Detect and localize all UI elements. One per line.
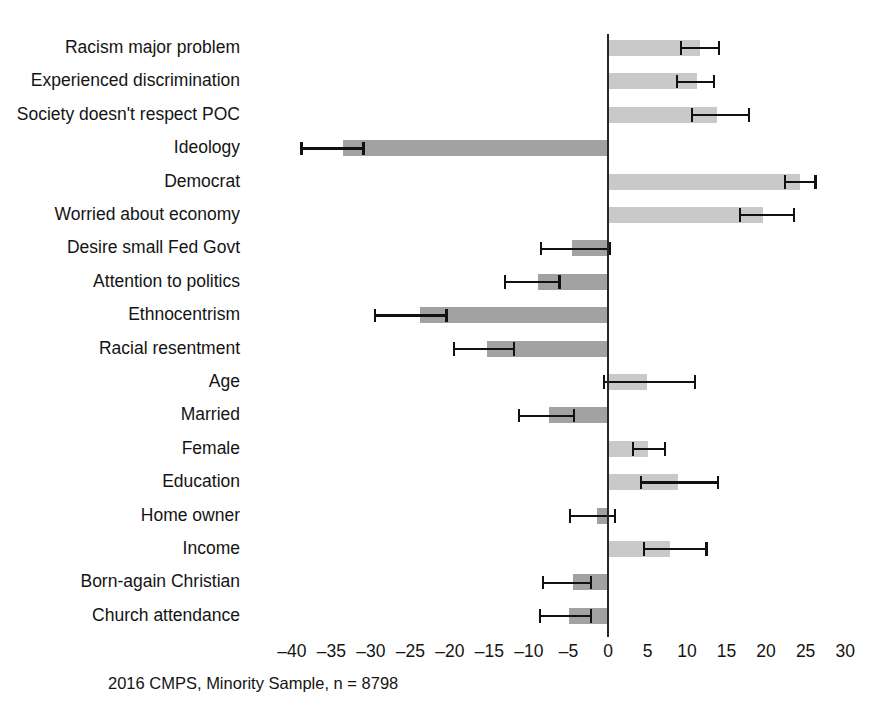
coefficient-row: Age bbox=[0, 366, 879, 397]
error-bar-cap bbox=[717, 476, 719, 490]
coefficient-row: Desire small Fed Govt bbox=[0, 232, 879, 263]
x-tick-label: –15 bbox=[475, 641, 504, 662]
category-label: Ethnocentrism bbox=[0, 299, 240, 330]
error-bar-cap bbox=[569, 509, 571, 523]
coefficient-row: Racial resentment bbox=[0, 333, 879, 364]
error-bar bbox=[784, 181, 816, 183]
x-tick-label: –20 bbox=[435, 641, 464, 662]
x-tick-label: 5 bbox=[643, 641, 653, 662]
coefficient-plot-figure: Racism major problemExperienced discrimi… bbox=[0, 0, 879, 714]
error-bar bbox=[632, 448, 667, 450]
x-tick-label: 0 bbox=[603, 641, 613, 662]
error-bar-cap bbox=[640, 476, 642, 490]
bar bbox=[343, 140, 608, 156]
error-bar bbox=[374, 314, 448, 316]
coefficient-row: Attention to politics bbox=[0, 266, 879, 297]
x-tick-label: 20 bbox=[756, 641, 775, 662]
x-tick-label: 25 bbox=[796, 641, 815, 662]
coefficient-row: Income bbox=[0, 533, 879, 564]
error-bar-cap bbox=[614, 509, 616, 523]
error-bar bbox=[518, 415, 575, 417]
error-bar-cap bbox=[748, 108, 750, 122]
coefficient-row: Female bbox=[0, 433, 879, 464]
x-tick-label: –40 bbox=[277, 641, 306, 662]
error-bar bbox=[691, 114, 750, 116]
category-label: Ideology bbox=[0, 132, 240, 163]
error-bar-cap bbox=[793, 208, 795, 222]
category-label: Experienced discrimination bbox=[0, 65, 240, 96]
category-label: Home owner bbox=[0, 500, 240, 531]
x-tick-label: 15 bbox=[717, 641, 736, 662]
category-label: Church attendance bbox=[0, 600, 240, 631]
category-label: Age bbox=[0, 366, 240, 397]
coefficient-row: Society doesn't respect POC bbox=[0, 99, 879, 130]
category-label: Racial resentment bbox=[0, 333, 240, 364]
error-bar-cap bbox=[518, 409, 520, 423]
x-tick-label: –5 bbox=[559, 641, 578, 662]
coefficient-row: Experienced discrimination bbox=[0, 65, 879, 96]
error-bar-cap bbox=[590, 609, 592, 623]
category-label: Racism major problem bbox=[0, 32, 240, 63]
error-bar bbox=[540, 248, 611, 250]
error-bar-cap bbox=[362, 142, 364, 156]
coefficient-row: Education bbox=[0, 466, 879, 497]
error-bar-cap bbox=[739, 208, 741, 222]
error-bar-cap bbox=[374, 309, 376, 323]
error-bar-cap bbox=[691, 108, 693, 122]
x-tick-label: –25 bbox=[396, 641, 425, 662]
coefficient-row: Racism major problem bbox=[0, 32, 879, 63]
error-bar bbox=[453, 348, 515, 350]
category-label: Education bbox=[0, 466, 240, 497]
error-bar-cap bbox=[300, 142, 302, 156]
error-bar-cap bbox=[603, 375, 605, 389]
category-label: Attention to politics bbox=[0, 266, 240, 297]
chart-caption: 2016 CMPS, Minority Sample, n = 8798 bbox=[108, 674, 398, 693]
x-tick-label: –30 bbox=[356, 641, 385, 662]
error-bar bbox=[539, 615, 592, 617]
plot-area: Racism major problemExperienced discrimi… bbox=[0, 0, 879, 714]
category-label: Desire small Fed Govt bbox=[0, 232, 240, 263]
error-bar-cap bbox=[540, 242, 542, 256]
error-bar-cap bbox=[713, 75, 715, 89]
error-bar-cap bbox=[513, 342, 515, 356]
coefficient-row: Democrat bbox=[0, 166, 879, 197]
error-bar-cap bbox=[643, 542, 645, 556]
category-label: Worried about economy bbox=[0, 199, 240, 230]
error-bar-cap bbox=[680, 41, 682, 55]
error-bar-cap bbox=[558, 275, 560, 289]
error-bar-cap bbox=[632, 442, 634, 456]
category-label: Married bbox=[0, 399, 240, 430]
coefficient-row: Ideology bbox=[0, 132, 879, 163]
error-bar-cap bbox=[453, 342, 455, 356]
error-bar bbox=[640, 481, 720, 483]
error-bar bbox=[504, 281, 561, 283]
error-bar-cap bbox=[590, 576, 592, 590]
error-bar-cap bbox=[694, 375, 696, 389]
error-bar-cap bbox=[609, 242, 611, 256]
bar bbox=[608, 174, 800, 190]
error-bar bbox=[300, 147, 364, 149]
error-bar-cap bbox=[445, 309, 447, 323]
error-bar-cap bbox=[539, 609, 541, 623]
error-bar bbox=[739, 214, 795, 216]
category-label: Society doesn't respect POC bbox=[0, 99, 240, 130]
coefficient-row: Married bbox=[0, 399, 879, 430]
error-bar bbox=[680, 47, 720, 49]
error-bar-cap bbox=[504, 275, 506, 289]
error-bar bbox=[542, 582, 593, 584]
bar bbox=[420, 307, 608, 323]
x-tick-label: 10 bbox=[677, 641, 696, 662]
coefficient-row: Ethnocentrism bbox=[0, 299, 879, 330]
category-label: Female bbox=[0, 433, 240, 464]
error-bar-cap bbox=[542, 576, 544, 590]
error-bar bbox=[676, 81, 716, 83]
error-bar-cap bbox=[664, 442, 666, 456]
error-bar-cap bbox=[784, 175, 786, 189]
coefficient-row: Church attendance bbox=[0, 600, 879, 631]
x-tick-label: –10 bbox=[514, 641, 543, 662]
coefficient-row: Born-again Christian bbox=[0, 566, 879, 597]
error-bar-cap bbox=[705, 542, 707, 556]
x-tick-label: 30 bbox=[835, 641, 854, 662]
category-label: Born-again Christian bbox=[0, 566, 240, 597]
error-bar bbox=[569, 515, 616, 517]
